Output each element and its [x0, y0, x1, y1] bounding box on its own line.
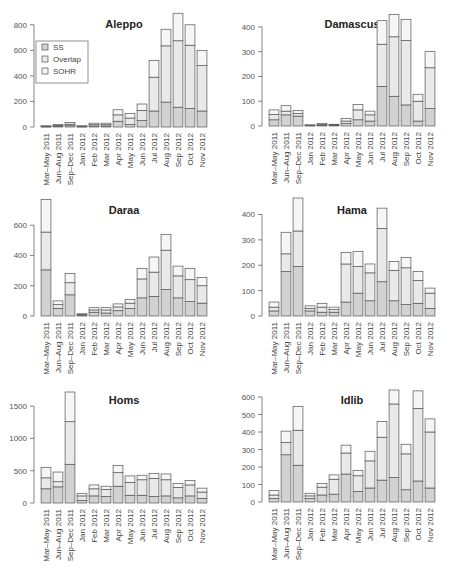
- y-tick-label: 0: [251, 122, 256, 131]
- bar-segment-ss: [401, 105, 411, 126]
- bar-chart-damascus: Damascus0100200300400Mar–May 2011Jun–Aug…: [228, 0, 456, 192]
- bar-segment-sohr: [137, 268, 147, 279]
- bar-segment-sohr: [389, 390, 399, 404]
- bar-segment-overlap: [137, 279, 147, 298]
- bar-segment-ss: [389, 301, 399, 316]
- bar-segment-ss: [161, 496, 171, 503]
- bar-segment-overlap: [77, 496, 87, 501]
- bar-segment-sohr: [197, 277, 207, 285]
- bar-segment-overlap: [197, 286, 207, 303]
- bar-segment-ss: [173, 498, 183, 503]
- y-tick-label: 200: [242, 463, 256, 472]
- bar-segment-sohr: [173, 266, 183, 276]
- x-tick-label: Nov 2012: [426, 131, 435, 166]
- bar-segment-sohr: [149, 257, 159, 272]
- bar-segment-ss: [413, 303, 423, 316]
- bar-segment-sohr: [101, 308, 111, 310]
- x-tick-label: Jun–Aug 2011: [54, 508, 63, 560]
- bar-segment-ss: [161, 290, 171, 316]
- chart-panel-daraa: Daraa0200400600Mar–May 2011Jun–Aug 2011S…: [0, 192, 228, 384]
- bar-segment-ss: [161, 102, 171, 127]
- x-tick-label: Oct 2012: [186, 132, 195, 165]
- x-tick-label: Sep 2012: [174, 508, 183, 543]
- bar-segment-ss: [89, 496, 99, 503]
- bar-segment-overlap: [185, 45, 195, 108]
- x-tick-label: Aug 2012: [390, 507, 399, 542]
- x-tick-label: Aug 2012: [162, 508, 171, 543]
- bar-segment-overlap: [293, 231, 303, 267]
- bar-segment-overlap: [413, 408, 423, 481]
- bar-segment-overlap: [341, 264, 351, 302]
- bar-segment-overlap: [173, 41, 183, 107]
- x-tick-label: Nov 2012: [426, 321, 435, 356]
- bar-segment-sohr: [197, 50, 207, 65]
- bar-segment-overlap: [365, 273, 375, 301]
- x-tick-label: Nov 2012: [198, 321, 207, 356]
- x-tick-label: Jan 2012: [78, 132, 87, 165]
- y-tick-label: 300: [242, 48, 256, 57]
- bar-segment-ss: [377, 480, 387, 502]
- bar-segment-sohr: [353, 471, 363, 476]
- bar-segment-ss: [101, 497, 111, 503]
- bar-segment-ss: [113, 121, 123, 127]
- x-tick-label: Apr 2012: [342, 321, 351, 354]
- bar-segment-overlap: [281, 111, 291, 115]
- bar-segment-ss: [53, 487, 63, 503]
- bar-segment-ss: [389, 478, 399, 503]
- x-tick-label: Feb 2012: [90, 321, 99, 355]
- bar-segment-overlap: [41, 478, 51, 489]
- bar-segment-sohr: [425, 288, 435, 293]
- bar-segment-ss: [77, 500, 87, 503]
- bar-segment-sohr: [173, 13, 183, 40]
- chart-panel-damascus: Damascus0100200300400Mar–May 2011Jun–Aug…: [228, 0, 456, 192]
- bar-segment-sohr: [185, 480, 195, 485]
- x-tick-label: Jan 2012: [306, 131, 315, 164]
- legend-swatch-ss: [42, 44, 48, 50]
- bar-segment-sohr: [329, 475, 339, 479]
- bar-segment-overlap: [149, 478, 159, 496]
- bar-segment-overlap: [341, 121, 351, 123]
- bar-segment-sohr: [413, 391, 423, 409]
- x-tick-label: Feb 2012: [90, 508, 99, 542]
- x-tick-label: Sep–Dec 2011: [66, 508, 75, 561]
- x-tick-label: Aug 2012: [162, 321, 171, 356]
- x-tick-label: Mar 2012: [102, 132, 111, 166]
- bar-segment-sohr: [149, 61, 159, 78]
- x-tick-label: Jun–Aug 2011: [54, 321, 63, 373]
- bar-segment-sohr: [341, 253, 351, 264]
- bar-segment-ss: [377, 282, 387, 316]
- bar-segment-overlap: [341, 453, 351, 474]
- y-tick-label: 600: [14, 221, 28, 230]
- bar-segment-overlap: [65, 283, 75, 295]
- chart-panel-hama: Hama0100200300400Mar–May 2011Jun–Aug 201…: [228, 192, 456, 384]
- x-tick-label: Feb 2012: [318, 321, 327, 355]
- bar-segment-ss: [53, 308, 63, 316]
- bar-segment-overlap: [365, 461, 375, 488]
- y-tick-label: 400: [14, 251, 28, 260]
- x-tick-label: Sep–Dec 2011: [294, 131, 303, 184]
- x-tick-label: Mar–May 2011: [42, 321, 51, 374]
- x-tick-label: Jun 2012: [366, 507, 375, 540]
- y-tick-label: 0: [23, 499, 28, 508]
- bar-segment-sohr: [53, 472, 63, 482]
- x-tick-label: Sep–Dec 2011: [66, 321, 75, 374]
- bar-segment-sohr: [77, 314, 87, 315]
- bar-segment-sohr: [281, 106, 291, 111]
- bar-segment-ss: [173, 107, 183, 127]
- x-tick-label: Sep 2012: [174, 132, 183, 167]
- x-tick-label: Jun–Aug 2011: [282, 321, 291, 373]
- bar-segment-sohr: [149, 473, 159, 478]
- x-tick-label: Sep–Dec 2011: [294, 321, 303, 374]
- bar-segment-overlap: [281, 443, 291, 455]
- x-tick-label: Mar–May 2011: [42, 132, 51, 185]
- y-tick-label: 200: [242, 261, 256, 270]
- x-tick-label: Mar 2012: [102, 321, 111, 355]
- bar-segment-ss: [353, 492, 363, 503]
- bar-segment-ss: [89, 312, 99, 316]
- legend-label: SOHR: [53, 67, 76, 76]
- x-tick-label: Jan 2012: [78, 321, 87, 354]
- bar-segment-sohr: [113, 304, 123, 307]
- bar-segment-ss: [185, 302, 195, 316]
- bar-segment-sohr: [53, 124, 63, 125]
- bar-segment-overlap: [269, 495, 279, 499]
